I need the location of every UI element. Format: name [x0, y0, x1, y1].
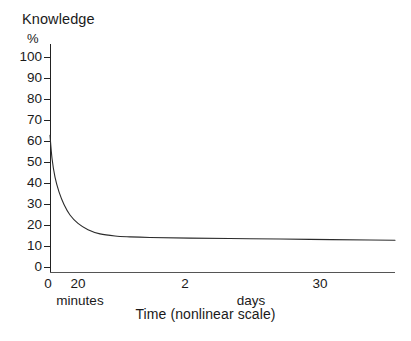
plot-area — [0, 0, 411, 341]
forgetting-curve-chart: Knowledge % 1009080706050403020100 02023… — [0, 0, 411, 341]
x-axis-title: Time (nonlinear scale) — [0, 306, 411, 322]
retention-curve-line — [50, 135, 395, 240]
